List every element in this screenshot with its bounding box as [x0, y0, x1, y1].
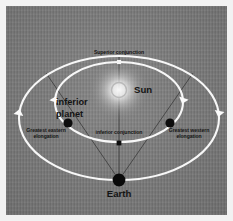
inferior-conjunction-marker	[117, 141, 122, 146]
greatest-eastern-elongation-marker	[63, 118, 72, 127]
orbit-graphics-layer	[6, 6, 227, 215]
figure-root: Superior conjunction inferior planet Sun…	[0, 0, 233, 221]
sun-glow	[89, 60, 149, 120]
orbit-diagram-canvas: Superior conjunction inferior planet Sun…	[6, 6, 227, 215]
superior-conjunction-marker	[117, 60, 121, 64]
greatest-western-elongation-marker	[165, 118, 174, 127]
earth-body	[113, 174, 126, 187]
